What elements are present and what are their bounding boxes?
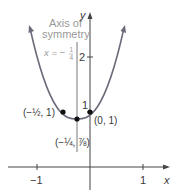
axis-eq-numerator: 1 [70, 46, 74, 53]
tick-label-x-neg1: −1 [30, 174, 43, 186]
point-vertex [74, 116, 79, 121]
curve-right-arrow-icon [121, 25, 127, 33]
y-axis-arrow-icon [88, 12, 93, 19]
axis-eq-denominator: 4 [70, 54, 74, 61]
point-left-label: (−½, 1) [23, 107, 55, 118]
axis-of-symmetry-label-2: symmetry [42, 28, 90, 40]
point-left [60, 109, 65, 114]
x-axis-label: x [163, 174, 170, 186]
axis-of-symmetry-equation: x = − [43, 47, 66, 58]
vertex-label: (−¼, ⅞) [55, 137, 90, 148]
tick-label-x-1: 1 [140, 174, 146, 186]
y-axis-label: y [79, 9, 87, 21]
curve-left-arrow-icon [29, 25, 35, 33]
tick-label-y-1: 1 [82, 99, 88, 111]
parabola-graph: Axis of symmetry x = − 1 4 y x 2 1 −1 1 … [0, 0, 182, 192]
point-y-intercept [87, 109, 92, 114]
point-right-label: (0, 1) [94, 115, 117, 126]
x-axis-arrow-icon [163, 165, 170, 170]
tick-label-y-2: 2 [79, 51, 85, 63]
